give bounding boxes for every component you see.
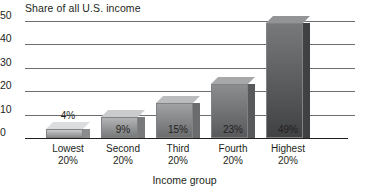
y-tick-label: 30	[0, 56, 24, 68]
bar-front-face	[46, 129, 83, 138]
y-tick-label: 50	[0, 9, 24, 21]
x-axis-title: Income group	[0, 174, 369, 186]
bar-value-label: 49%	[266, 124, 310, 135]
bar-top-face	[101, 110, 145, 117]
bar-top-face	[156, 96, 200, 103]
x-tick-label-line: Highest	[256, 143, 321, 155]
bar-value-label: 23%	[211, 124, 255, 135]
y-tick-label: 0	[0, 126, 24, 138]
y-axis-title: Share of all U.S. income	[25, 2, 141, 14]
bar-value-label: 15%	[156, 124, 200, 135]
y-tick-label: 10	[0, 103, 24, 115]
bar-side-face	[83, 129, 90, 138]
y-tick-label: 40	[0, 32, 24, 44]
x-tick-label-line: 20%	[256, 155, 321, 167]
bar-front-face	[266, 23, 303, 138]
bar-value-label: 9%	[101, 124, 145, 135]
gridline	[25, 21, 355, 22]
x-axis-baseline	[25, 138, 348, 139]
bar-top-face	[211, 77, 255, 84]
bar	[266, 16, 303, 138]
bar-side-face	[303, 23, 310, 138]
y-tick-label: 20	[0, 79, 24, 91]
x-tick-label: Highest20%	[256, 143, 321, 166]
bar-top-face	[266, 16, 310, 23]
bar-chart: Share of all U.S. income 50403020100 Low…	[0, 0, 369, 195]
bar	[46, 122, 83, 138]
bar-top-face	[46, 122, 90, 129]
bar-value-label: 4%	[46, 110, 90, 121]
